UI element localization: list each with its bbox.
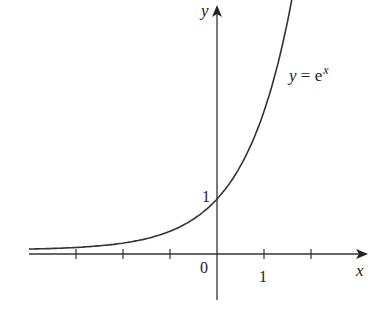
curve-label: y = ex bbox=[287, 63, 329, 85]
y-axis-label: y bbox=[199, 1, 209, 20]
x-tick-label-1: 1 bbox=[259, 268, 267, 285]
y-tick-label-1: 1 bbox=[202, 188, 210, 205]
exp-curve bbox=[29, 0, 296, 249]
curve-label-eq: = e bbox=[297, 66, 323, 85]
curve-label-exp: x bbox=[322, 63, 329, 77]
origin-label: 0 bbox=[200, 259, 208, 276]
curve-label-y: y bbox=[287, 66, 297, 85]
exponential-chart: y x 0 1 1 y = ex bbox=[0, 0, 388, 315]
x-axis-label: x bbox=[355, 261, 364, 280]
